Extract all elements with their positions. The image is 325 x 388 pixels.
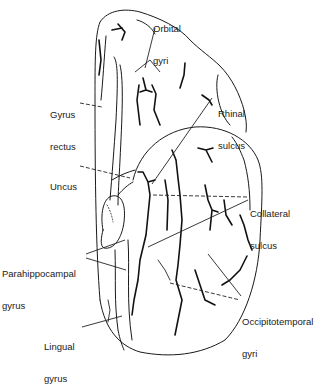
label-rhinal-sulcus: Rhinal sulcus [218,88,245,162]
label-rhinal-sulcus-line1: Rhinal [218,109,245,120]
label-uncus: Uncus [50,161,77,203]
label-occipitotemporal-gyri: Occipitotemporal gyri [242,296,313,370]
leader-lingual-gyrus [82,316,122,327]
label-uncus-line1: Uncus [50,182,77,193]
label-lingual-gyrus: Lingual gyrus [44,321,75,388]
label-occipitotemporal-gyri-line2: gyri [242,349,313,360]
label-orbital-gyri: Orbital gyri [153,3,181,77]
label-gyrus-rectus: Gyrus rectus [50,89,76,163]
label-gyrus-rectus-line1: Gyrus [50,110,76,121]
label-orbital-gyri-line2: gyri [153,56,181,67]
label-collateral-sulcus-line1: Collateral [250,209,290,220]
label-orbital-gyri-line1: Orbital [153,24,181,35]
label-lingual-gyrus-line1: Lingual [44,342,75,353]
label-parahippocampal-gyrus-line1: Parahippocampal [2,269,76,280]
leader-parahippocampal-1 [86,240,125,254]
label-lingual-gyrus-line2: gyrus [44,374,75,385]
leader-uncus [80,166,130,178]
leader-gyrus-rectus [80,103,102,107]
label-occipitotemporal-gyri-line1: Occipitotemporal [242,317,313,328]
label-collateral-sulcus-line2: sulcus [250,241,290,252]
label-gyrus-rectus-line2: rectus [50,142,76,153]
label-parahippocampal-gyrus: Parahippocampal gyrus [2,248,76,322]
leader-parahippocampal-2 [86,258,126,270]
label-rhinal-sulcus-line2: sulcus [218,141,245,152]
leader-rhinal-sulcus [152,98,212,184]
leader-collateral-sulcus-2 [148,200,248,247]
label-parahippocampal-gyrus-line2: gyrus [2,301,76,312]
label-collateral-sulcus: Collateral sulcus [250,188,290,262]
